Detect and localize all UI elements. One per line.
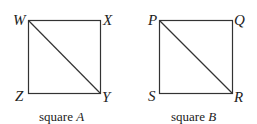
caption-square-a: square A	[39, 109, 84, 124]
vertex-label-r: R	[233, 89, 243, 105]
caption-square-b: square B	[171, 109, 216, 124]
caption-letter: B	[208, 109, 216, 124]
two-squares-diagram: W X Z Y square A P Q S R square B	[0, 0, 257, 124]
vertex-label-x: X	[102, 12, 113, 28]
vertex-label-q: Q	[234, 12, 245, 28]
vertex-label-y: Y	[102, 89, 112, 105]
caption-letter: A	[75, 109, 84, 124]
caption-prefix: square	[171, 109, 205, 124]
square-b: P Q S R square B	[147, 12, 245, 124]
vertex-label-z: Z	[15, 88, 24, 104]
vertex-label-p: P	[147, 12, 157, 28]
square-a: W X Z Y square A	[13, 12, 113, 124]
caption-prefix: square	[39, 109, 73, 124]
square-b-diagonal-pr	[160, 21, 233, 94]
vertex-label-w: W	[13, 12, 27, 28]
vertex-label-s: S	[148, 88, 156, 104]
square-a-diagonal-wy	[29, 21, 101, 94]
